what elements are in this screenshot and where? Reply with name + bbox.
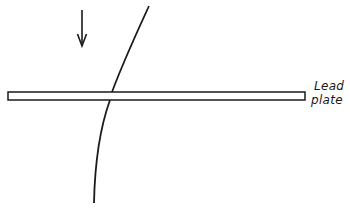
particle-track-lower — [94, 100, 110, 203]
particle-track-upper — [112, 6, 149, 92]
diagram-canvas — [0, 0, 350, 208]
lead-plate-label-line2: plate — [311, 94, 343, 107]
down-arrow-icon — [78, 10, 87, 46]
lead-plate-label-line1: Lead — [314, 80, 344, 93]
lead-plate — [8, 92, 305, 100]
